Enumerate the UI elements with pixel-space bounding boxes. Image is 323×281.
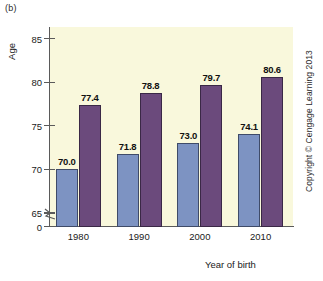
bar[interactable] bbox=[117, 154, 139, 227]
bar-value-label: 80.6 bbox=[255, 64, 289, 75]
y-axis-tick-label: 75 bbox=[20, 120, 42, 131]
bar[interactable] bbox=[261, 77, 283, 227]
bar[interactable] bbox=[238, 134, 260, 227]
bar-value-label: 78.8 bbox=[134, 80, 168, 91]
y-axis-tick-label: 65 bbox=[20, 208, 42, 219]
bar-group: 73.079.7 bbox=[172, 27, 233, 227]
bar[interactable] bbox=[177, 143, 199, 227]
y-axis-origin-label: 0 bbox=[20, 221, 42, 232]
y-axis-tick-label: 70 bbox=[20, 164, 42, 175]
bar-group: 71.878.8 bbox=[111, 27, 172, 227]
figure-container: (b) 65707580850 Age 70.077.471.878.873.0… bbox=[0, 0, 323, 281]
x-axis-title: Year of birth bbox=[205, 259, 256, 270]
bar-group: 70.077.4 bbox=[50, 27, 111, 227]
y-axis-tick-label: 80 bbox=[20, 77, 42, 88]
bar-value-label: 79.7 bbox=[194, 72, 228, 83]
x-axis-tick-label: 1980 bbox=[58, 231, 98, 242]
bars-layer: 70.077.471.878.873.079.774.180.6 bbox=[50, 27, 293, 227]
bar-group: 74.180.6 bbox=[232, 27, 293, 227]
bar[interactable] bbox=[200, 85, 222, 227]
y-axis-tick-label: 85 bbox=[20, 33, 42, 44]
x-axis-tick-label: 2010 bbox=[241, 231, 281, 242]
bar[interactable] bbox=[79, 105, 101, 227]
bar[interactable] bbox=[56, 169, 78, 227]
y-axis-tick-labels: 65707580850 bbox=[14, 0, 42, 281]
bar[interactable] bbox=[140, 93, 162, 227]
x-axis-tick-label: 2000 bbox=[180, 231, 220, 242]
y-axis-title: Age bbox=[6, 32, 17, 72]
x-axis-tick-labels: 1980199020002010 bbox=[50, 231, 293, 247]
copyright-notice: Copyright © Cengage Learning 2013 bbox=[304, 60, 314, 192]
x-axis-tick-label: 1990 bbox=[119, 231, 159, 242]
bar-value-label: 77.4 bbox=[73, 92, 107, 103]
